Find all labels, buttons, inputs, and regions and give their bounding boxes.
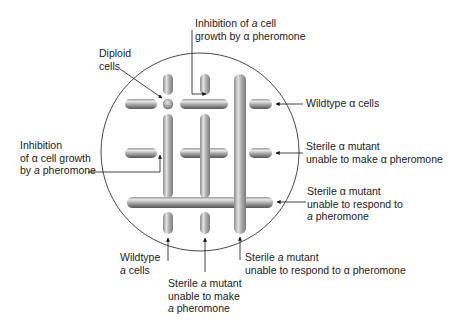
label-text: pheromone bbox=[40, 164, 96, 176]
streak-a-ste-make-bottom bbox=[200, 212, 210, 234]
streak-alpha-wt-left bbox=[125, 99, 157, 109]
label-text: Sterile bbox=[245, 251, 278, 263]
streak-a-wt-middle bbox=[163, 114, 173, 198]
label-sterile-alpha-respond: Sterile α mutant unable to respond to a … bbox=[307, 185, 403, 223]
label-text: by bbox=[20, 164, 34, 176]
streak-alpha-ste-respond bbox=[127, 197, 273, 208]
label-text: pheromone bbox=[313, 210, 369, 222]
streak-a-ste-respond bbox=[234, 74, 246, 234]
streak-a-ste-make-top bbox=[200, 74, 210, 95]
label-text: cells bbox=[99, 60, 131, 73]
streak-alpha-wt-right bbox=[249, 99, 272, 109]
label-text: pheromone bbox=[174, 302, 230, 314]
label-text: cells bbox=[126, 264, 150, 276]
label-text: Sterile α mutant bbox=[307, 185, 403, 198]
label-text: Wildtype bbox=[120, 251, 160, 264]
streak-alpha-wt-middle bbox=[180, 99, 228, 109]
label-text: Inhibition of bbox=[195, 17, 252, 29]
label-wildtype-alpha: Wildtype α cells bbox=[306, 97, 379, 110]
label-text: growth by α pheromone bbox=[195, 30, 306, 43]
label-diploid-cells: Diploid cells bbox=[99, 47, 131, 72]
streak-alpha-ste-make-left bbox=[125, 148, 157, 158]
label-text: Inhibition bbox=[20, 139, 96, 152]
label-text: Sterile α mutant bbox=[306, 140, 443, 153]
label-inhibition-a-cell: Inhibition of a cell growth by α pheromo… bbox=[195, 17, 306, 42]
streak-a-wt-bottom bbox=[163, 212, 173, 234]
label-inhibition-alpha-cell: Inhibition of α cell growth by a pheromo… bbox=[20, 139, 96, 177]
diploid-colony bbox=[163, 99, 173, 109]
streak-a-ste-make-middle bbox=[200, 114, 210, 198]
label-wildtype-a: Wildtype a cells bbox=[120, 251, 160, 276]
label-text: of α cell growth bbox=[20, 152, 96, 165]
leader-diploid bbox=[120, 69, 162, 98]
label-text: mutant bbox=[207, 277, 242, 289]
label-sterile-a-respond: Sterile a mutant unable to respond to α … bbox=[245, 251, 406, 276]
label-text: Sterile bbox=[168, 277, 201, 289]
label-sterile-alpha-make: Sterile α mutant unable to make α pherom… bbox=[306, 140, 443, 165]
label-text: unable to respond to bbox=[307, 198, 403, 211]
label-text: unable to make bbox=[168, 290, 242, 303]
label-text: Diploid bbox=[99, 47, 131, 60]
label-text: cell bbox=[257, 17, 276, 29]
label-text: Wildtype α cells bbox=[306, 97, 379, 110]
streak-alpha-ste-make-right bbox=[249, 148, 272, 158]
label-text: unable to make α pheromone bbox=[306, 153, 443, 166]
streak-a-wt-top bbox=[163, 74, 173, 95]
label-sterile-a-make: Sterile a mutant unable to make a pherom… bbox=[168, 277, 242, 315]
streak-plate-figure: Inhibition of a cell growth by α pheromo… bbox=[0, 0, 452, 322]
label-text: mutant bbox=[284, 251, 319, 263]
label-text: unable to respond to α pheromone bbox=[245, 264, 406, 277]
